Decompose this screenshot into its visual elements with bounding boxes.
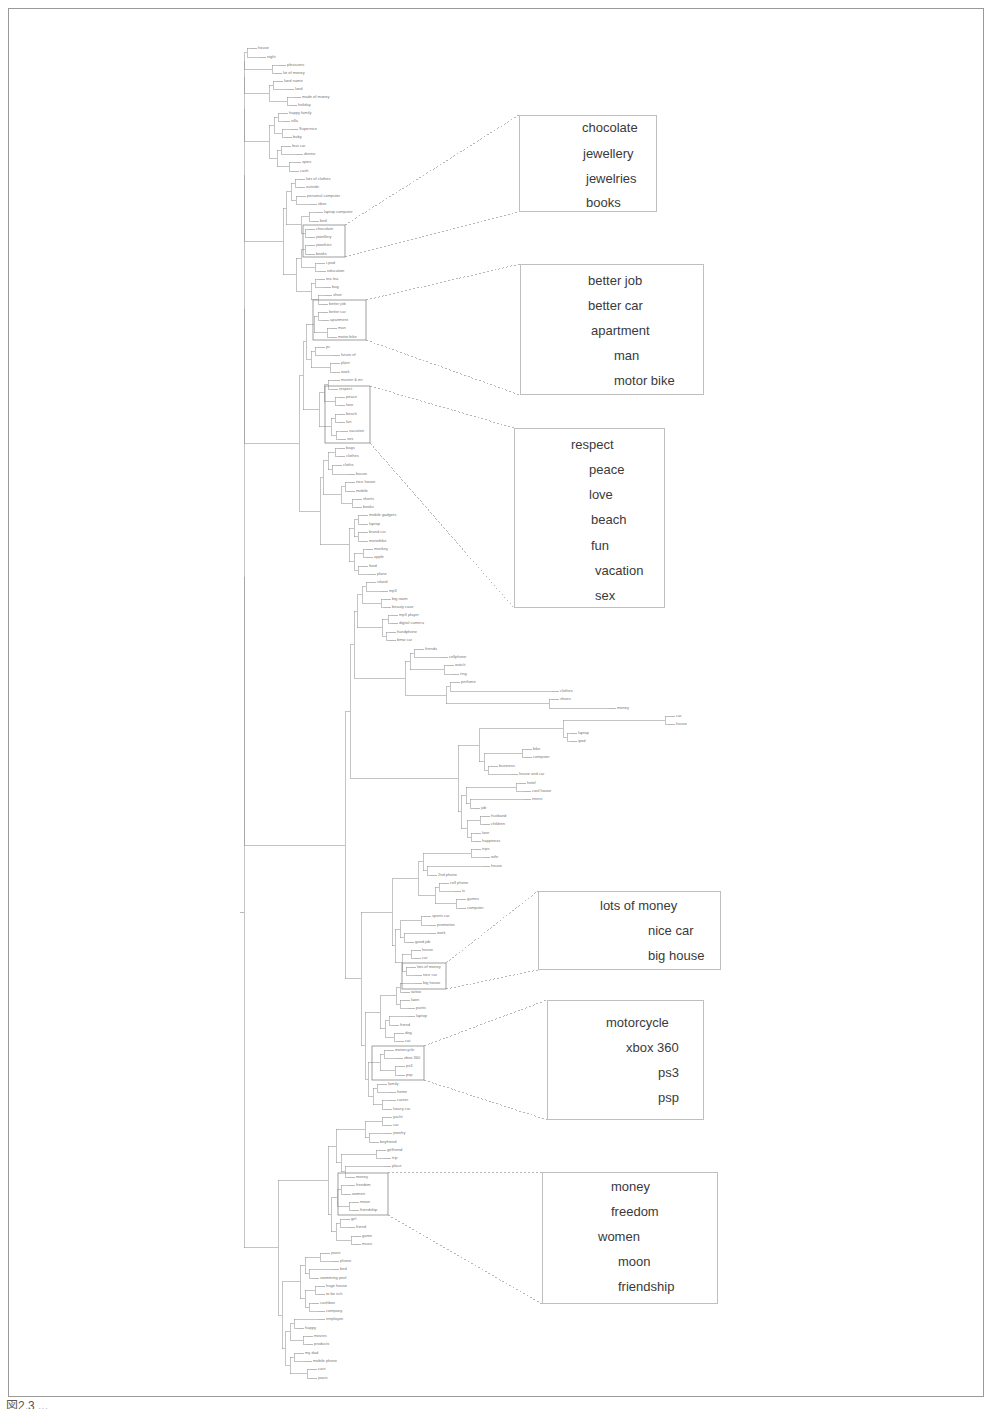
leaf-label: hotel [527, 781, 536, 785]
leaf-label: games [467, 897, 479, 901]
leaf-label: mobile [356, 489, 368, 493]
leaf-label: cloths [343, 463, 353, 467]
leaf-label: nice house [356, 480, 375, 484]
callout-leaf-label: jewelries [586, 172, 637, 186]
leaf-label: monkey [374, 547, 388, 551]
leaf-label: made of money [302, 95, 330, 99]
leaf-label: man [338, 326, 346, 330]
leaf-label: motorbike [369, 539, 387, 543]
leaf-label: perfume [461, 680, 476, 684]
callout-leaf-label: big house [648, 949, 704, 963]
leaf-label: bags [346, 446, 355, 450]
leaf-label: car [393, 1123, 399, 1127]
leaf-label: bmw car [397, 638, 412, 642]
leaf-label: house [491, 864, 502, 868]
leaf-label: master & mr [341, 378, 363, 382]
leaf-label: husband [491, 814, 506, 818]
leaf-label: personal computer [307, 194, 340, 198]
dendrogram-main [0, 0, 997, 1409]
leaf-label: girl [351, 1217, 356, 1221]
leaf-label: tv [462, 889, 465, 893]
callout-leaf-label: nice car [648, 924, 694, 938]
leaf-label: motorcycle [395, 1048, 414, 1052]
callout-leaf-label: love [589, 488, 613, 502]
leaf-label: big house [423, 981, 440, 985]
leaf-label: ps3 [406, 1064, 412, 1068]
leaf-label: holiday [298, 103, 311, 107]
leaf-label: lots of clothes [306, 177, 330, 181]
leaf-label: apartment [330, 318, 348, 322]
leaf-label: friend [400, 1023, 410, 1027]
leaf-label: mp3 [389, 589, 397, 593]
leaf-label: books [316, 252, 327, 256]
leaf-label: jeans [318, 1376, 328, 1380]
leaf-label: handphone [397, 630, 417, 634]
leaf-label: pc [326, 345, 330, 349]
callout-leaf-label: vacation [595, 564, 643, 578]
leaf-label: my dad [305, 1351, 318, 1355]
leaf-label: cat [405, 1039, 410, 1043]
leaf-label: game [362, 1234, 372, 1238]
leaf-label: books [363, 505, 374, 509]
leaf-label: cash [300, 169, 308, 173]
callout-4: lots of moneynice carbig house [538, 891, 721, 970]
leaf-label: 2nd phone [438, 873, 457, 877]
leaf-label: clothes [560, 689, 573, 693]
leaf-label: night [267, 55, 276, 59]
leaf-label: house [422, 948, 433, 952]
leaf-label: house [258, 46, 269, 50]
leaf-label: clothes [346, 454, 359, 458]
leaf-label: money [356, 1175, 368, 1179]
callout-leaf-label: money [611, 1180, 650, 1194]
leaf-label: friendship [360, 1208, 377, 1212]
callout-5: motorcyclexbox 360ps3psp [547, 1000, 704, 1120]
leaf-label: work [437, 931, 445, 935]
leaf-label: island [377, 580, 387, 584]
leaf-label: sports car [432, 914, 450, 918]
leaf-label: good job [415, 940, 430, 944]
leaf-label: sex [347, 437, 353, 441]
leaf-label: mobile gadgets [369, 513, 396, 517]
leaf-label: apple [374, 555, 384, 559]
leaf-label: baby [293, 135, 302, 139]
leaf-label: food [369, 564, 377, 568]
callout-leaf-label: freedom [611, 1205, 659, 1219]
leaf-label: i-pod [326, 261, 335, 265]
leaf-label: movies [314, 1334, 327, 1338]
callout-leaf-label: xbox 360 [626, 1041, 679, 1055]
callout-leaf-label: lots of money [600, 899, 677, 913]
leaf-label: shoe [333, 293, 342, 297]
leaf-label: wife [491, 855, 498, 859]
leaf-label: donno [304, 152, 315, 156]
leaf-label: work [341, 370, 349, 374]
callout-leaf-label: fun [591, 539, 609, 553]
leaf-label: money [617, 706, 629, 710]
callout-leaf-label: apartment [591, 324, 650, 338]
leaf-label: bag [332, 285, 339, 289]
leaf-label: spies [302, 160, 311, 164]
leaf-label: career [397, 1098, 408, 1102]
leaf-label: bike [533, 747, 540, 751]
leaf-label: happiness [482, 839, 500, 843]
leaf-label: computer [467, 906, 484, 910]
leaf-label: Supernice [299, 127, 317, 131]
callout-leaf-label: motor bike [614, 374, 675, 388]
leaf-label: respect [339, 387, 352, 391]
leaf-label: beauty case [392, 605, 414, 609]
leaf-label: dog [405, 1031, 412, 1035]
leaf-label: lot of money [283, 71, 305, 75]
leaf-label: motor bike [338, 335, 357, 339]
leaf-label: place [392, 1164, 402, 1168]
leaf-label: lawn [411, 998, 419, 1002]
leaf-label: yacht [393, 1115, 403, 1119]
leaf-label: cell phone [450, 881, 468, 885]
callout-leaf-label: better job [588, 274, 642, 288]
callout-leaf-label: women [598, 1230, 640, 1244]
leaf-label: job [481, 806, 486, 810]
leaf-label: cashbox [320, 1301, 335, 1305]
leaf-label: villa [291, 119, 298, 123]
leaf-label: bed [340, 1267, 347, 1271]
leaf-label: invest [532, 797, 542, 801]
leaf-label: education [327, 269, 344, 273]
leaf-label: plant [341, 361, 350, 365]
